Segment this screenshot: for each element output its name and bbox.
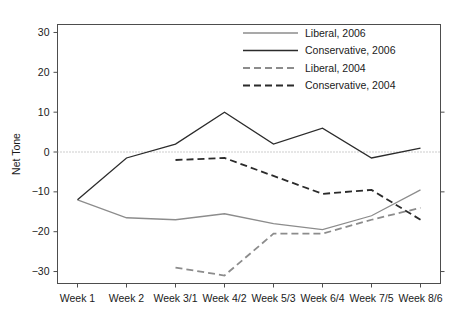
y-tick-label: 10: [38, 106, 50, 118]
y-tick-label: 0: [44, 146, 50, 158]
net-tone-line-chart: 3020100−10−20−30 Week 1Week 2Week 3/1Wee…: [0, 0, 468, 318]
legend-label-0: Liberal, 2006: [305, 27, 366, 39]
y-axis-tick-labels: 3020100−10−20−30: [32, 26, 50, 277]
x-axis-tick-labels: Week 1Week 2Week 3/1Week 4/2Week 5/3Week…: [60, 292, 443, 304]
x-tick-label: Week 1: [60, 292, 96, 304]
x-tick-label: Week 4/2: [202, 292, 246, 304]
x-tick-label: Week 2: [109, 292, 145, 304]
series-line-2: [176, 208, 421, 276]
x-tick-label: Week 8/6: [398, 292, 442, 304]
plot-frame: [58, 25, 441, 284]
x-tick-label: Week 3/1: [153, 292, 197, 304]
legend-label-1: Conservative, 2006: [305, 44, 396, 56]
x-tick-label: Week 6/4: [300, 292, 344, 304]
y-tick-label: −10: [32, 185, 50, 197]
data-series-group: [78, 112, 421, 275]
y-tick-label: 30: [38, 26, 50, 38]
y-tick-label: −30: [32, 265, 50, 277]
chart-container: 3020100−10−20−30 Week 1Week 2Week 3/1Wee…: [0, 0, 468, 318]
x-tick-label: Week 5/3: [251, 292, 295, 304]
y-tick-label: −20: [32, 225, 50, 237]
chart-legend: Liberal, 2006Conservative, 2006Liberal, …: [243, 27, 396, 92]
series-line-1: [78, 112, 421, 200]
legend-label-3: Conservative, 2004: [305, 79, 396, 91]
y-tick-label: 20: [38, 66, 50, 78]
series-line-0: [78, 190, 421, 230]
x-tick-label: Week 7/5: [349, 292, 393, 304]
series-line-3: [176, 158, 421, 220]
legend-label-2: Liberal, 2004: [305, 62, 366, 74]
x-axis-ticks: [78, 284, 421, 288]
y-axis-title: Net Tone: [10, 133, 22, 175]
